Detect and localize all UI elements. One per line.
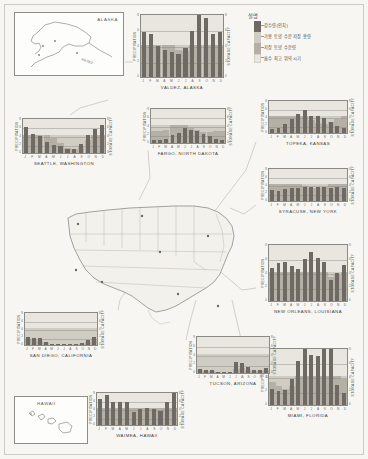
precipitation-bar [26,337,30,346]
month-label: J [234,375,238,379]
month-label: S [323,135,327,139]
month-label: F [276,303,280,307]
month-label: J [269,135,273,139]
month-label: O [208,145,212,149]
right-axis-title-text: STORAGE CAPACITY [352,254,356,293]
right-axis-title: STORAGE CAPACITY [271,336,280,374]
precipitation-bar [92,337,96,345]
left-axis-title: PRECIPITATION [186,336,195,374]
left-axis-title: PRECIPITATION [140,108,149,144]
precipitation-bar [329,122,333,133]
precipitation-bar [270,190,274,201]
right-axis-title-text: STORAGE CAPACITY [110,117,114,156]
left-axis-title: PRECIPITATION [258,244,267,302]
plot-area: 8642086420PRECIPITATIONSTORAGE CAPACITY [268,348,348,406]
climograph-neworleans: 8642086420PRECIPITATIONSTORAGE CAPACITYJ… [268,244,348,316]
climograph-fargo: 8642086420PRECIPITATIONSTORAGE CAPACITYJ… [150,108,226,158]
month-label: J [189,145,193,149]
month-label: M [282,203,286,207]
month-label: J [228,375,232,379]
plot-area: 8642086420PRECIPITATIONSTORAGE CAPACITY [268,100,348,134]
precipitation-bar [44,342,48,345]
month-axis: JFMAMJJASOND [196,375,270,379]
month-label: S [198,79,202,83]
month-label: D [265,375,269,379]
month-label: J [151,145,155,149]
climograph-tucson: 8642086420PRECIPITATIONSTORAGE CAPACITYJ… [196,336,270,388]
precipitation-bar [258,370,262,373]
chart-title: SAN DIEGO, CALIFORNIA [12,353,110,358]
precipitation-bar [45,142,49,153]
right-axis-title: STORAGE CAPACITY [349,244,358,302]
precipitation-bars [269,169,347,201]
precipitation-bar [208,136,212,143]
right-axis-title: STORAGE CAPACITY [179,392,188,426]
inset-map-hawaii: HAWAII [14,396,88,444]
precipitation-bar [283,262,287,301]
month-axis: JFMAMJJASOND [140,79,224,83]
precipitation-bar [234,362,238,373]
month-label: N [94,155,98,159]
month-label: F [276,135,280,139]
precipitation-bar [316,187,320,201]
climograph-waimea: 8642086420PRECIPITATIONSTORAGE CAPACITYJ… [96,392,178,440]
plot-canvas [268,168,348,202]
precipitation-bar [316,116,320,133]
precipitation-bar [172,393,176,425]
month-axis: JFMAMJJASOND [150,145,226,149]
month-label: J [197,375,201,379]
month-label: J [97,427,101,431]
month-label: J [303,303,307,307]
precipitation-bar [329,188,333,201]
climograph-valdez: 8642086420PRECIPITATIONSTORAGE CAPACITYJ… [140,14,224,92]
month-label: J [183,145,187,149]
precipitation-bar [204,370,208,373]
precipitation-bar [277,391,281,406]
precipitation-bar [62,344,66,345]
month-label: M [164,145,168,149]
precipitation-bar [31,134,35,153]
plot-canvas [140,14,224,78]
precipitation-bar [296,114,300,133]
precipitation-bar [335,273,339,301]
legend-swatch-peak-absorption [254,54,261,63]
precipitation-bar [309,252,313,301]
right-axis-title-text: STORAGE CAPACITY [230,107,234,146]
month-label: M [51,155,55,159]
right-axis-title: STORAGE CAPACITY [227,108,236,144]
month-label: M [296,203,300,207]
precipitation-bar [214,139,218,143]
precipitation-bar [316,258,320,302]
month-label: J [309,203,313,207]
left-axis-title: PRECIPITATION [86,392,95,426]
month-label: S [202,145,206,149]
month-label: F [30,155,34,159]
chart-title: SYRACUSE, NEW YORK [256,209,360,214]
precipitation-bar [158,411,162,425]
left-axis-title: PRECIPITATION [258,168,267,202]
precipitation-bar [303,259,307,301]
month-label: F [104,427,108,431]
month-label: M [222,375,226,379]
left-axis-title-text: PRECIPITATION [189,340,193,369]
precipitation-bars [269,245,347,301]
precipitation-bar [329,348,333,405]
month-label: M [37,155,41,159]
month-label: A [289,135,293,139]
precipitation-bar [303,110,307,133]
precipitation-bar [156,46,160,77]
month-label: M [282,135,286,139]
month-label: J [303,407,307,411]
plot-area: 8642086420PRECIPITATIONSTORAGE CAPACITY [22,118,106,154]
month-label: M [111,427,115,431]
month-label: A [316,407,320,411]
month-label: D [343,303,347,307]
month-label: A [316,203,320,207]
chart-title: TOPEKA, KANSAS [256,141,360,146]
precipitation-bar [220,140,224,143]
plot-canvas [22,118,106,154]
plot-canvas [268,244,348,302]
legend-swatch-column [254,21,261,63]
month-label: N [87,347,91,351]
month-axis: JFMAMJJASOND [24,347,98,351]
